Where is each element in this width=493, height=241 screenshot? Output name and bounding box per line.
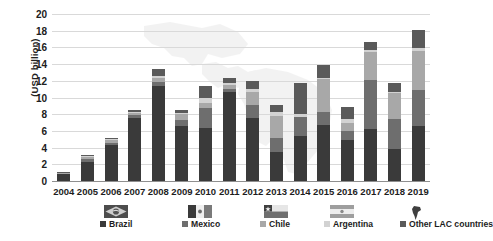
bar-segment-brazil [199,128,212,181]
legend-swatch [324,221,330,227]
bar-2017[interactable] [364,42,377,181]
bar-segment-chile [246,92,259,105]
legend-swatch [260,221,266,227]
legend-item-chile[interactable]: Chile [260,219,290,229]
bar-segment-other-lac-countries [412,30,425,48]
bar-2014[interactable] [294,83,307,182]
bar-segment-brazil [317,125,330,181]
bar-segment-brazil [341,140,354,181]
legend-item-argentina[interactable]: Argentina [324,219,373,229]
bar-segment-mexico [364,80,377,129]
bar-segment-brazil [294,136,307,181]
bar-2011[interactable] [223,78,236,181]
bar-segment-mexico [294,117,307,136]
bar-2019[interactable] [412,30,425,181]
bar-2010[interactable] [199,86,212,181]
bar-2016[interactable] [341,107,354,181]
x-tick-label: 2016 [337,186,358,197]
legend-item-brazil[interactable]: Brazil [100,219,132,229]
x-tick-label: 2017 [360,186,381,197]
legend-swatch [182,221,188,227]
bar-2012[interactable] [246,81,259,181]
x-tick-label: 2004 [53,186,74,197]
y-tick: 6 [41,125,47,136]
bar-segment-chile [412,51,425,90]
legend-label: Chile [269,219,290,229]
bar-segment-chile [270,116,283,138]
bar-segment-brazil [246,118,259,181]
bar-segment-other-lac-countries [152,69,165,76]
bar-segment-other-lac-countries [388,83,401,92]
x-tick-label: 2012 [242,186,263,197]
y-tick: 14 [36,59,47,70]
bar-segment-mexico [270,138,283,152]
bar-segment-mexico [388,119,401,149]
bar-segment-other-lac-countries [341,107,354,120]
bar-segment-brazil [364,129,377,181]
bar-2008[interactable] [152,69,165,181]
bar-segment-mexico [412,90,425,126]
x-tick-label: 2006 [100,186,121,197]
y-tick: 0 [41,176,47,187]
bar-segment-other-lac-countries [294,83,307,115]
bar-segment-brazil [128,118,141,181]
bar-segment-brazil [81,162,94,181]
bar-segment-other-lac-countries [199,86,212,99]
y-tick: 10 [36,92,47,103]
bar-2018[interactable] [388,83,401,181]
x-tick-label: 2013 [266,186,287,197]
x-tick-label: 2010 [195,186,216,197]
chart-legend: BrazilMexicoChileArgentinaOther LAC coun… [52,205,430,239]
argentina-flag-icon [330,205,354,218]
x-tick-label: 2007 [124,186,145,197]
bar-2005[interactable] [81,155,94,181]
legend-label: Argentina [333,219,373,229]
legend-label: Other LAC countries [409,219,493,229]
bar-segment-brazil [388,149,401,181]
bar-segment-other-lac-countries [246,81,259,89]
bar-segment-brazil [152,86,165,181]
bar-segment-other-lac-countries [317,65,330,78]
brazil-flag-icon [104,205,128,218]
bar-segment-chile [317,79,330,112]
legend-swatch [100,221,106,227]
bar-segment-brazil [223,92,236,181]
x-tick-label: 2019 [408,186,429,197]
x-tick-label: 2009 [171,186,192,197]
legend-item-other-lac-countries[interactable]: Other LAC countries [400,219,493,229]
x-tick-label: 2005 [77,186,98,197]
x-tick-label: 2015 [313,186,334,197]
bar-segment-brazil [105,145,118,181]
legend-label: Brazil [109,219,132,229]
bar-segment-other-lac-countries [364,42,377,50]
bar-segment-chile [364,52,377,80]
bar-2013[interactable] [270,105,283,181]
x-axis-labels: 2004200520062007200820092010201120122013… [52,186,430,200]
bar-segment-brazil [270,152,283,181]
bar-2004[interactable] [57,172,70,181]
y-tick: 16 [36,42,47,53]
bar-segment-brazil [412,126,425,181]
x-tick-label: 2014 [289,186,310,197]
legend-label: Mexico [191,219,220,229]
bar-segment-mexico [246,105,259,118]
bar-2015[interactable] [317,65,330,181]
chile-flag-icon [264,205,288,218]
bar-segment-mexico [317,112,330,125]
mexico-flag-icon [188,205,212,218]
legend-item-mexico[interactable]: Mexico [182,219,220,229]
y-tick: 4 [41,142,47,153]
bar-segment-other-lac-countries [270,105,283,112]
y-tick: 12 [36,75,47,86]
legend-swatch [400,221,406,227]
bar-series-container [52,14,430,182]
x-tick-label: 2008 [148,186,169,197]
bar-2006[interactable] [105,138,118,181]
bar-segment-chile [341,123,354,131]
x-tick-label: 2018 [384,186,405,197]
bar-segment-mexico [199,108,212,127]
y-tick: 20 [36,9,47,20]
bar-2007[interactable] [128,110,141,181]
bar-2009[interactable] [175,110,188,181]
